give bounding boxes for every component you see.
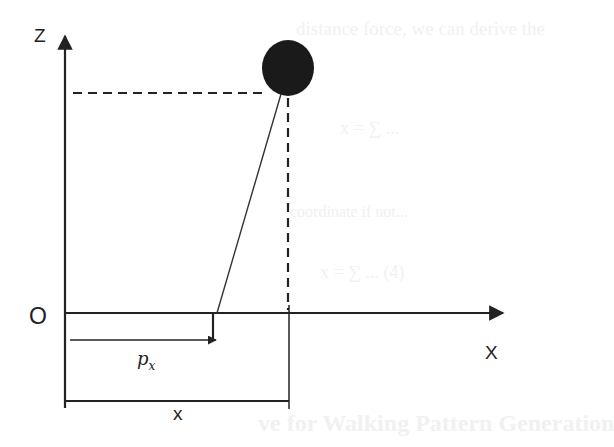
px-label-sub: x [149, 359, 156, 373]
point-mass-circle [262, 40, 314, 96]
px-label: px [137, 350, 155, 372]
z-axis-label: Z [34, 26, 46, 45]
mass-x-label: x [173, 404, 183, 423]
pendulum-leg-line [217, 94, 281, 313]
origin-label: O [29, 305, 47, 328]
px-label-main: p [137, 348, 149, 369]
x-axis-label: X [485, 343, 498, 362]
